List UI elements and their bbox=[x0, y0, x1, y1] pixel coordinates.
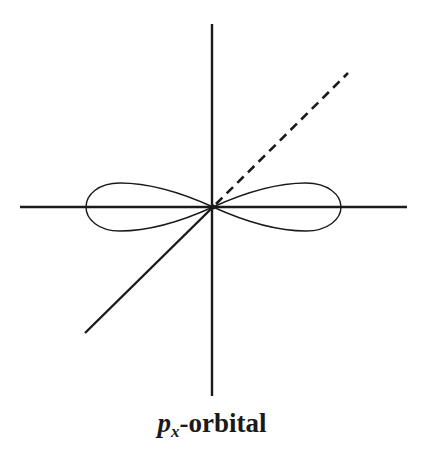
origin-point bbox=[211, 205, 216, 210]
caption-subscript: x bbox=[171, 422, 180, 441]
diagram-caption: px-orbital bbox=[0, 408, 424, 442]
caption-symbol: p bbox=[158, 408, 172, 438]
y-axis-front bbox=[85, 207, 213, 333]
caption-suffix: -orbital bbox=[180, 408, 267, 438]
orbital-diagram bbox=[0, 0, 424, 459]
